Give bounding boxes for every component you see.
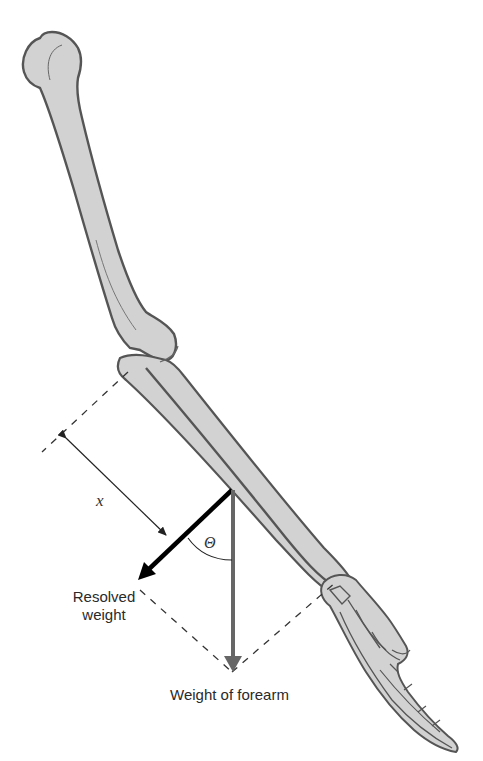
resolved-weight-arrow: [138, 490, 232, 580]
weight-of-forearm-arrow: [224, 490, 242, 672]
hand-bones: [321, 575, 457, 752]
resolved-weight-line2: weight: [58, 606, 150, 624]
arm-diagram: [0, 0, 483, 761]
angle-label: Θ: [204, 534, 216, 552]
resolved-weight-line1: Resolved: [58, 588, 150, 606]
resolved-weight-label: Resolved weight: [58, 588, 150, 624]
distance-x-arrow: [66, 438, 166, 535]
humerus-bone: [23, 32, 176, 360]
weight-of-forearm-label: Weight of forearm: [170, 686, 289, 704]
distance-label: x: [96, 492, 104, 510]
